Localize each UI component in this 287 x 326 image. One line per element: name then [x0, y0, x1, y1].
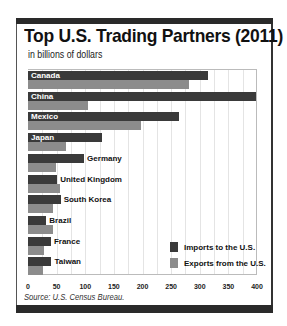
- bar-imports: [28, 92, 256, 101]
- bar-exports: [28, 101, 88, 110]
- x-tick-label: 50: [53, 283, 61, 290]
- category-label: France: [54, 237, 80, 246]
- category-label: Brazil: [49, 216, 71, 225]
- category-label: Japan: [31, 133, 54, 142]
- imports-swatch: [170, 242, 178, 252]
- bar-imports: [28, 237, 51, 246]
- x-tick-label: 0: [26, 283, 30, 290]
- legend: Imports to the U.S. Exports from the U.S…: [170, 240, 266, 272]
- category-label: Mexico: [31, 112, 58, 121]
- x-tick-label: 250: [165, 283, 177, 290]
- exports-swatch: [170, 258, 178, 268]
- bar-exports: [28, 266, 43, 275]
- top-border-band: [16, 18, 273, 24]
- bar-exports: [28, 80, 189, 89]
- bar-exports: [28, 163, 56, 172]
- bar-imports: [28, 216, 46, 225]
- source-note: Source: U.S. Census Bureau.: [24, 292, 124, 302]
- bar-exports: [28, 246, 44, 255]
- bar-imports: [28, 154, 84, 163]
- bar-exports: [28, 121, 141, 130]
- bar-exports: [28, 225, 53, 234]
- x-tick-label: 400: [251, 283, 263, 290]
- category-label: South Korea: [64, 195, 112, 204]
- category-label: Canada: [31, 71, 60, 80]
- chart-title: Top U.S. Trading Partners (2011): [24, 25, 283, 47]
- x-tick-label: 150: [108, 283, 120, 290]
- legend-imports-label: Imports to the U.S.: [184, 243, 255, 252]
- x-tick-label: 100: [79, 283, 91, 290]
- bar-imports: [28, 257, 51, 266]
- bar-imports: [28, 175, 57, 184]
- legend-exports-label: Exports from the U.S.: [184, 259, 266, 268]
- category-label: United Kingdom: [60, 175, 122, 184]
- category-label: Taiwan: [54, 257, 81, 266]
- bar-exports: [28, 204, 53, 213]
- chart-subtitle: in billions of dollars: [28, 48, 102, 60]
- category-label: Germany: [87, 154, 122, 163]
- x-tick-label: 300: [194, 283, 206, 290]
- bar-imports: [28, 195, 61, 204]
- legend-item-exports: Exports from the U.S.: [170, 256, 266, 270]
- legend-item-imports: Imports to the U.S.: [170, 240, 266, 254]
- bottom-border-band: [16, 305, 273, 313]
- bar-exports: [28, 142, 66, 151]
- bar-exports: [28, 184, 60, 193]
- x-tick-label: 200: [137, 283, 149, 290]
- category-label: China: [31, 92, 53, 101]
- x-tick-label: 350: [223, 283, 235, 290]
